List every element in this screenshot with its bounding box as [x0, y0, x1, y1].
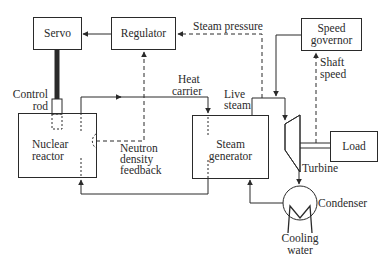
heat-carrier-label-2: carrier — [172, 86, 202, 97]
servo-label: Servo — [33, 28, 82, 39]
steam-pressure-label: Steam pressure — [193, 21, 263, 32]
cooling-water-label-2: water — [276, 245, 324, 256]
load-label: Load — [330, 141, 378, 152]
nuclear-reactor-label-1: Nuclear — [32, 139, 68, 150]
shaft-speed-label-2: speed — [320, 69, 346, 80]
control-rod-label-1: Control — [6, 89, 48, 100]
turbine-label: Turbine — [302, 163, 338, 174]
shaft-speed-label-1: Shaft — [320, 57, 344, 68]
cooling-water-label-1: Cooling — [276, 233, 324, 244]
speed-governor-label-2: governor — [301, 35, 362, 46]
speed-governor-output — [276, 35, 301, 96]
heat-carrier-label-1: Heat — [178, 74, 200, 85]
turbine-icon — [285, 115, 300, 172]
steam-generator-label-2: generator — [192, 151, 269, 162]
live-steam-label-2: steam — [224, 100, 251, 111]
nuclear-reactor-label-2: reactor — [32, 151, 64, 162]
speed-governor-label-1: Speed — [301, 23, 362, 34]
control-rod-label-2: rod — [6, 101, 48, 112]
control-rod-icon — [52, 99, 62, 114]
condensate-return-flow — [250, 180, 283, 203]
steam-generator-label-1: Steam — [192, 139, 269, 150]
control-diagram: Servo Regulator Speed governor Nuclear r… — [0, 0, 391, 264]
condenser-label: Condenser — [318, 198, 367, 209]
coolant-return-flow — [81, 178, 208, 194]
regulator-label: Regulator — [111, 28, 176, 39]
neutron-density-feedback-label-3: feedback — [120, 165, 162, 176]
condenser-icon — [283, 186, 317, 220]
